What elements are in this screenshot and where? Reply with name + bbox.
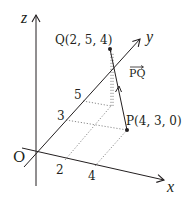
vector-pq bbox=[110, 49, 127, 130]
z-axis-label: z bbox=[20, 9, 28, 26]
point-q bbox=[108, 47, 112, 51]
x-axis-label: x bbox=[166, 178, 174, 195]
y-axis bbox=[24, 39, 140, 167]
dotted-line-y3-to-p bbox=[66, 120, 127, 130]
x-tick-label-2: 2 bbox=[56, 163, 64, 177]
dotted-line-y5-to-q-foot bbox=[83, 101, 111, 106]
point-p-label: P(4, 3, 0) bbox=[126, 114, 182, 128]
x-tick-label-4: 4 bbox=[88, 169, 96, 183]
y-tick-label-3: 3 bbox=[57, 109, 65, 123]
vector-pq-line bbox=[110, 49, 127, 130]
y-axis-label: y bbox=[144, 28, 154, 46]
y-tick-label-5: 5 bbox=[74, 88, 82, 102]
construction-lines bbox=[65, 49, 127, 166]
dotted-line-x4-to-p bbox=[95, 130, 127, 166]
point-q-label: Q(2, 5, 4) bbox=[55, 33, 112, 47]
coordinate-diagram: z y x O 3 5 2 4 Q(2, 5, 4) P(4, 3, 0) PQ bbox=[0, 0, 194, 199]
point-p bbox=[125, 128, 129, 132]
vector-pq-label: PQ bbox=[129, 67, 145, 80]
origin-label: O bbox=[13, 148, 25, 166]
vector-label: PQ bbox=[129, 66, 145, 81]
